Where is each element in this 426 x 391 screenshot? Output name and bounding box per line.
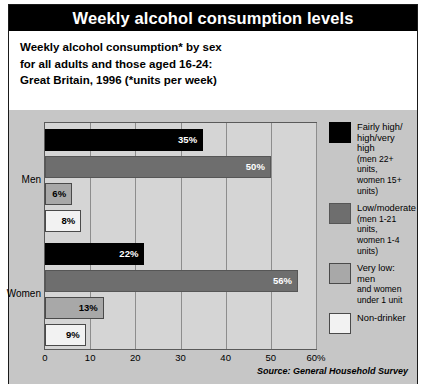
subtitle-line-1: Weekly alcohol consumption* by sex <box>20 39 350 56</box>
bar: 13% <box>45 297 104 319</box>
subtitle-line-3: Great Britain, 1996 (*units per week) <box>20 72 350 89</box>
source-note: Source: General Household Survey <box>257 366 408 376</box>
legend-label-line: under 1 unit <box>357 295 409 306</box>
legend-label-line: Low/moderate <box>357 203 416 214</box>
x-tick-label: 0 <box>42 352 47 363</box>
legend-item: Non-drinker <box>329 313 409 334</box>
x-tick-label: 40 <box>220 352 231 363</box>
bar-value-label: 35% <box>178 134 202 145</box>
bar-value-label: 13% <box>79 302 103 313</box>
bar-value-label: 56% <box>273 275 297 286</box>
legend-label-line: high/very high <box>357 133 409 154</box>
x-tick-label: 20 <box>130 352 141 363</box>
legend-label-line: Very low: men <box>357 263 409 284</box>
category-axis: MenWomen <box>0 122 41 350</box>
legend-label-line: women 15+ units) <box>357 175 409 196</box>
bar-value-label: 22% <box>119 248 143 259</box>
category-label-men: Men <box>22 174 41 185</box>
legend-label: Low/moderate(men 1-21 units,women 1-4 un… <box>357 203 416 256</box>
legend-swatch <box>329 122 351 143</box>
legend-label-line: Fairly high/ <box>357 122 409 133</box>
legend-label-line: women 1-4 units) <box>357 235 416 256</box>
bar-value-label: 6% <box>52 188 71 199</box>
chart-legend: Fairly high/high/very high(men 22+ units… <box>329 122 409 341</box>
x-tick-label: 10 <box>85 352 96 363</box>
chart-figure: Weekly alcohol consumption levels Weekly… <box>0 0 426 391</box>
legend-label: Non-drinker <box>357 313 406 324</box>
x-tick-label: 50 <box>266 352 277 363</box>
bar: 22% <box>45 243 144 265</box>
category-label-women: Women <box>7 288 41 299</box>
gridline <box>271 123 272 349</box>
legend-swatch <box>329 203 351 224</box>
header-bar: Weekly alcohol consumption levels <box>9 5 417 31</box>
plot-area: 35%50%6%8%22%56%13%9% <box>44 122 317 350</box>
bar-value-label: 9% <box>66 329 85 340</box>
x-tick-label: 30 <box>175 352 186 363</box>
page-title: Weekly alcohol consumption levels <box>73 9 354 28</box>
subtitle-line-2: for all adults and those aged 16-24: <box>20 56 350 73</box>
bar: 35% <box>45 129 203 151</box>
legend-label-line: (men 22+ units, <box>357 154 409 175</box>
bar: 50% <box>45 156 271 178</box>
bar-value-label: 50% <box>246 161 270 172</box>
bar: 9% <box>45 324 86 346</box>
chart-subtitle: Weekly alcohol consumption* by sex for a… <box>20 39 350 89</box>
legend-item: Fairly high/high/very high(men 22+ units… <box>329 122 409 196</box>
legend-item: Very low: menand womenunder 1 unit <box>329 263 409 305</box>
legend-label: Fairly high/high/very high(men 22+ units… <box>357 122 409 196</box>
bar: 56% <box>45 270 298 292</box>
legend-label-line: Non-drinker <box>357 313 406 324</box>
legend-label-line: and women <box>357 284 409 295</box>
legend-label-line: (men 1-21 units, <box>357 214 416 235</box>
legend-swatch <box>329 263 351 284</box>
bar: 8% <box>45 210 81 232</box>
legend-item: Low/moderate(men 1-21 units,women 1-4 un… <box>329 203 409 256</box>
legend-swatch <box>329 313 351 334</box>
bar-value-label: 8% <box>61 215 80 226</box>
bar: 6% <box>45 183 72 205</box>
legend-label: Very low: menand womenunder 1 unit <box>357 263 409 305</box>
x-tick-label: 60% <box>306 352 325 363</box>
gridline <box>316 123 317 349</box>
